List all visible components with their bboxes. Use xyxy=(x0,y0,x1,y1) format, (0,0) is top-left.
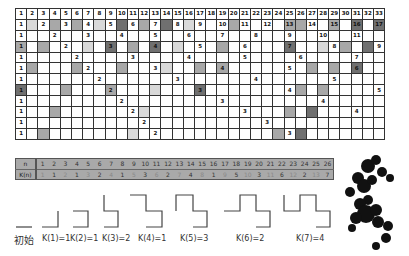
grid-cell xyxy=(206,63,217,74)
grid-cell: 5 xyxy=(239,52,250,63)
grid-cell: 17 xyxy=(374,19,385,30)
grid-cell: 3 xyxy=(172,74,183,85)
grid-cell xyxy=(206,117,217,128)
grid-cell xyxy=(94,41,105,52)
curve-k3 xyxy=(104,195,118,227)
grid-cell: 3 xyxy=(60,19,71,30)
grid-cell: 5 xyxy=(150,30,161,41)
grid-cell xyxy=(340,128,351,139)
n-value: 22 xyxy=(276,159,287,170)
grid-header-cell: 29 xyxy=(329,9,340,20)
grid-cell xyxy=(27,128,38,139)
grid-cell xyxy=(83,52,94,63)
grid-cell xyxy=(374,52,385,63)
grid-cell xyxy=(27,30,38,41)
n-value: 19 xyxy=(242,159,253,170)
k-value: 2 xyxy=(162,169,173,180)
grid-cell xyxy=(172,63,183,74)
n-value: 21 xyxy=(265,159,276,170)
grid-cell xyxy=(116,117,127,128)
grid-cell: 1 xyxy=(16,63,27,74)
grid-header-cell: 12 xyxy=(139,9,150,20)
grid-cell xyxy=(60,96,71,107)
n-value: 7 xyxy=(105,159,116,170)
grid-cell xyxy=(351,117,362,128)
grid-cell: 7 xyxy=(150,19,161,30)
grid-cell xyxy=(306,41,317,52)
grid-row: 123456 xyxy=(16,63,385,74)
grid-cell xyxy=(374,107,385,118)
grid-header-cell: 33 xyxy=(374,9,385,20)
grid-cell: 9 xyxy=(284,30,295,41)
grid-row: 123 xyxy=(16,117,385,128)
grid-cell xyxy=(228,85,239,96)
grid-cell: 2 xyxy=(105,85,116,96)
grid-cell: 5 xyxy=(105,19,116,30)
grid-cell xyxy=(127,85,138,96)
grid-cell xyxy=(83,128,94,139)
grid-cell xyxy=(262,128,273,139)
grid-cell xyxy=(306,107,317,118)
grid-cell xyxy=(83,85,94,96)
folding-curves-diagram xyxy=(0,180,340,256)
grid-row: 123 xyxy=(16,128,385,139)
grid-cell xyxy=(71,117,82,128)
grid-cell xyxy=(329,30,340,41)
grid-cell xyxy=(284,117,295,128)
grid-cell xyxy=(172,117,183,128)
grid-cell: 8 xyxy=(250,30,261,41)
grid-cell xyxy=(49,117,60,128)
grid-header-cell: 16 xyxy=(183,9,194,20)
k-value: 3 xyxy=(83,169,94,180)
grid-cell xyxy=(362,85,373,96)
grid-cell xyxy=(217,128,228,139)
grid-cell xyxy=(306,117,317,128)
grid-cell xyxy=(139,85,150,96)
grid-cell xyxy=(195,30,206,41)
grid-cell xyxy=(206,52,217,63)
n-value: 15 xyxy=(196,159,207,170)
grid-cell xyxy=(206,41,217,52)
grid-cell xyxy=(139,63,150,74)
grid-cell: 2 xyxy=(83,63,94,74)
k-value: 7 xyxy=(174,169,185,180)
grid-header-cell: 31 xyxy=(351,9,362,20)
grid-cell xyxy=(262,96,273,107)
n-value: 8 xyxy=(117,159,128,170)
caption-k4: K(4)=1 xyxy=(138,234,166,243)
grid-cell xyxy=(127,96,138,107)
grid-header-cell: 13 xyxy=(150,9,161,20)
grid-cell: 4 xyxy=(351,107,362,118)
grid-cell xyxy=(306,128,317,139)
grid-cell xyxy=(105,63,116,74)
grid-cell xyxy=(329,52,340,63)
grid-cell xyxy=(139,41,150,52)
grid-cell xyxy=(273,96,284,107)
grid-cell xyxy=(94,128,105,139)
grid-cell xyxy=(228,128,239,139)
k-value: 5 xyxy=(128,169,139,180)
grid-cell xyxy=(195,128,206,139)
grid-cell xyxy=(250,107,261,118)
grid-cell: 11 xyxy=(351,30,362,41)
grid-cell: 10 xyxy=(217,19,228,30)
grid-cell xyxy=(340,63,351,74)
grid-cell xyxy=(262,63,273,74)
grid-cell xyxy=(127,41,138,52)
grid-cell: 4 xyxy=(150,41,161,52)
k-value: 10 xyxy=(242,169,253,180)
n-value: 4 xyxy=(71,159,82,170)
grid-cell: 1 xyxy=(16,85,27,96)
grid-cell: 1 xyxy=(16,117,27,128)
grid-cell xyxy=(139,30,150,41)
grid-cell xyxy=(105,74,116,85)
grid-cell xyxy=(318,19,329,30)
grid-cell xyxy=(116,85,127,96)
k-value: 3 xyxy=(253,169,264,180)
grid-cell xyxy=(161,19,172,30)
grid-cell: 9 xyxy=(195,19,206,30)
n-value: 12 xyxy=(162,159,173,170)
grid-cell xyxy=(27,107,38,118)
grid-cell: 5 xyxy=(329,74,340,85)
grid-cell xyxy=(71,85,82,96)
